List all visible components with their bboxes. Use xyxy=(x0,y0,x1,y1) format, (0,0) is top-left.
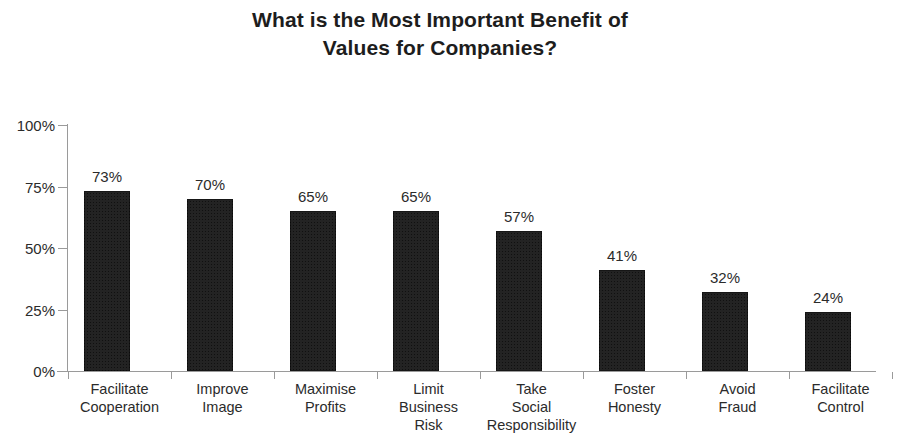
y-axis-tick-label: 25% xyxy=(0,303,55,318)
x-axis-category-label: TakeSocialResponsibility xyxy=(474,380,589,434)
chart-title-line-1: What is the Most Important Benefit of xyxy=(0,6,880,34)
chart-title: What is the Most Important Benefit of Va… xyxy=(0,6,880,62)
bar-value-label: 24% xyxy=(788,290,868,305)
category-label-line: Risk xyxy=(371,416,486,434)
category-label-line: Foster xyxy=(577,380,692,398)
bar xyxy=(496,231,542,371)
category-label-line: Business xyxy=(371,398,486,416)
bar-value-label: 57% xyxy=(479,209,559,224)
plot-area xyxy=(68,125,876,371)
x-axis-category-label: MaximiseProfits xyxy=(268,380,383,416)
x-axis-tick xyxy=(892,372,893,379)
x-axis-category-label: FacilitateCooperation xyxy=(62,380,177,416)
bar xyxy=(805,312,851,371)
x-axis-line xyxy=(57,371,876,372)
category-label-line: Responsibility xyxy=(474,416,589,434)
category-label-line: Social xyxy=(474,398,589,416)
y-axis-tick xyxy=(58,187,68,188)
y-axis-tick-label: 75% xyxy=(0,180,55,195)
x-axis-category-label: LimitBusinessRisk xyxy=(371,380,486,434)
category-label-line: Fraud xyxy=(680,398,795,416)
bar xyxy=(84,191,130,371)
bar-value-label: 41% xyxy=(582,248,662,263)
bar xyxy=(393,211,439,371)
x-axis-tick xyxy=(377,372,378,379)
bar xyxy=(702,292,748,371)
category-label-line: Improve xyxy=(165,380,280,398)
category-label-line: Image xyxy=(165,398,280,416)
y-axis-tick xyxy=(58,310,68,311)
y-axis-tick-label: 50% xyxy=(0,241,55,256)
category-label-line: Avoid xyxy=(680,380,795,398)
x-axis-tick xyxy=(686,372,687,379)
category-label-line: Facilitate xyxy=(783,380,897,398)
y-axis-tick-label: 0% xyxy=(0,364,55,379)
bar xyxy=(599,270,645,371)
category-label-line: Limit xyxy=(371,380,486,398)
x-axis-category-label: FacilitateControl xyxy=(783,380,897,416)
y-axis-tick-label: 100% xyxy=(0,118,55,133)
x-axis-tick xyxy=(68,372,69,379)
x-axis-category-label: FosterHonesty xyxy=(577,380,692,416)
x-axis-tick xyxy=(789,372,790,379)
bar xyxy=(187,199,233,371)
category-label-line: Control xyxy=(783,398,897,416)
category-label-line: Take xyxy=(474,380,589,398)
bar xyxy=(290,211,336,371)
bar-value-label: 70% xyxy=(170,177,250,192)
chart-title-line-2: Values for Companies? xyxy=(0,34,880,62)
bar-value-label: 32% xyxy=(685,270,765,285)
y-axis-tick xyxy=(58,248,68,249)
x-axis-tick xyxy=(274,372,275,379)
bar-value-label: 65% xyxy=(273,189,353,204)
bar-value-label: 65% xyxy=(376,189,456,204)
y-axis-tick xyxy=(58,125,68,126)
category-label-line: Honesty xyxy=(577,398,692,416)
category-label-line: Maximise xyxy=(268,380,383,398)
x-axis-category-label: AvoidFraud xyxy=(680,380,795,416)
bar-value-label: 73% xyxy=(67,169,147,184)
x-axis-tick xyxy=(171,372,172,379)
category-label-line: Facilitate xyxy=(62,380,177,398)
x-axis-tick xyxy=(480,372,481,379)
y-axis-tick xyxy=(58,371,68,372)
x-axis-category-label: ImproveImage xyxy=(165,380,280,416)
category-label-line: Profits xyxy=(268,398,383,416)
x-axis-tick xyxy=(583,372,584,379)
category-label-line: Cooperation xyxy=(62,398,177,416)
